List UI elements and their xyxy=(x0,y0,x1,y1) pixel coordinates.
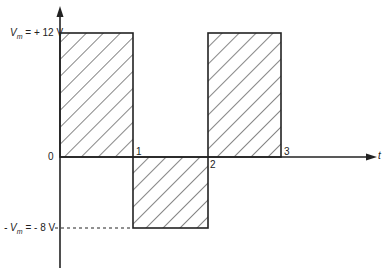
x-axis-arrow-icon xyxy=(366,154,377,161)
vm-equals: = xyxy=(25,27,31,38)
pulse-positive-1 xyxy=(60,33,133,157)
pulse-negative xyxy=(133,157,208,228)
vm-positive-label: Vm = + 12 V xyxy=(10,28,63,40)
vm-symbol: V xyxy=(10,27,17,38)
zero-label: 0 xyxy=(48,152,54,162)
y-axis-arrow-icon xyxy=(57,6,64,17)
vm-positive-value: + 12 V xyxy=(34,27,63,38)
vm-subscript: m xyxy=(17,33,23,40)
vm-negative-value: = - 8 V xyxy=(25,222,55,233)
neg-vm-subscript: m xyxy=(17,228,23,235)
vm-negative-label: - Vm = - 8 V xyxy=(4,223,55,235)
x-axis-label: t xyxy=(378,151,381,161)
waveform-diagram xyxy=(0,0,385,270)
x-tick-1: 1 xyxy=(136,147,142,157)
x-tick-3: 3 xyxy=(284,147,290,157)
pulse-positive-2 xyxy=(208,33,281,157)
neg-vm-symbol: - V xyxy=(4,222,17,233)
x-tick-2: 2 xyxy=(210,160,216,170)
